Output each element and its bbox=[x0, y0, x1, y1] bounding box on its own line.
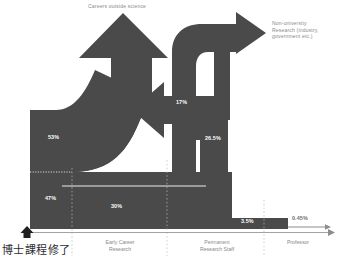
pct-3-5: 3.5% bbox=[241, 218, 254, 224]
stage-label-early-career-research: Early Career Research bbox=[92, 239, 148, 253]
bottom-axis-arrowhead bbox=[328, 229, 335, 236]
pct-53: 53% bbox=[48, 134, 59, 140]
pct-30: 30% bbox=[111, 203, 122, 209]
label-phd-completion: 博士課程修了 bbox=[2, 241, 70, 257]
label-careers-outside-science: Careers outside science bbox=[88, 3, 146, 10]
label-non-university-research: Non-university Research (industry, gover… bbox=[272, 20, 319, 40]
arrow-0-45-professor bbox=[288, 224, 331, 230]
diagram-canvas: Careers outside science Non-university R… bbox=[0, 0, 337, 260]
stage-label-professor: Professor bbox=[275, 239, 321, 246]
stage-label-permanent-research-staff: Permanent Research Staff bbox=[186, 239, 248, 253]
pct-0-45: 0.45% bbox=[292, 215, 308, 221]
pct-26-5: 26.5% bbox=[205, 135, 221, 141]
pct-47: 47% bbox=[45, 195, 56, 201]
pct-17: 17% bbox=[176, 99, 187, 105]
